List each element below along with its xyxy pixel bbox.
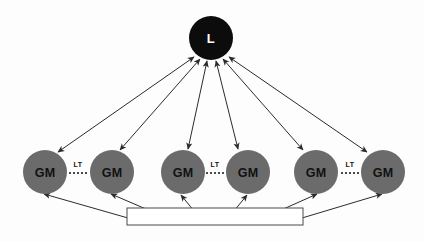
edge-leader-to-gm-6 — [229, 57, 367, 152]
edge-leader-to-gm-1 — [58, 57, 194, 152]
gm-node-label-4: GM — [238, 166, 259, 180]
edge-leader-to-gm-4 — [216, 61, 238, 149]
shared-bus-rectangle — [127, 208, 303, 225]
edge-bus-to-gm-1 — [44, 194, 128, 218]
lt-link-label-2: LT — [210, 161, 219, 168]
edge-leader-to-gm-2 — [120, 59, 200, 150]
leader-node-group: L — [189, 16, 233, 60]
gm-node-group: GMGMGMGMGMGM — [23, 150, 405, 194]
gm-node-label-2: GM — [102, 166, 123, 180]
gm-node-label-1: GM — [35, 166, 56, 180]
node-link-diagram: LTLTLT GMGMGMGMGMGM L — [0, 0, 424, 242]
gm-node-label-6: GM — [373, 166, 394, 180]
gm-node-label-5: GM — [306, 166, 327, 180]
gm-node-label-3: GM — [173, 166, 194, 180]
lt-link-label-3: LT — [345, 161, 354, 168]
leader-node-label: L — [207, 31, 215, 46]
leader-to-gm-edges — [58, 57, 367, 152]
edge-bus-to-gm-6 — [302, 194, 382, 218]
edge-leader-to-gm-3 — [188, 61, 207, 149]
diagram-canvas: LTLTLT GMGMGMGMGMGM L — [0, 0, 424, 242]
shared-bus-group — [127, 208, 303, 225]
lt-link-label-1: LT — [73, 161, 82, 168]
